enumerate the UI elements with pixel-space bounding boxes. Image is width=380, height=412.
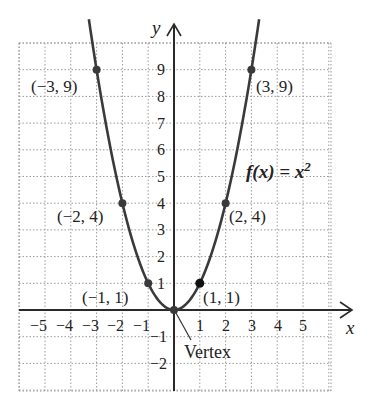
y-tick-9: 9 (157, 62, 165, 78)
point-label-neg3-9: (−3, 9) (31, 78, 77, 95)
x-tick-4: 4 (274, 318, 282, 334)
y-tick-neg2: −2 (150, 356, 167, 372)
y-tick-5: 5 (157, 169, 165, 185)
x-tick-neg5: −5 (30, 318, 47, 334)
point-label-neg1-1: (−1, 1) (82, 289, 128, 306)
data-point (222, 199, 230, 207)
y-tick-7: 7 (157, 116, 165, 132)
y-tick-6: 6 (157, 142, 165, 158)
data-point (170, 306, 178, 314)
x-tick-neg1: −1 (133, 318, 150, 334)
point-label-neg2-4: (−2, 4) (57, 208, 103, 225)
function-label: f(x) = x2 (246, 160, 311, 181)
function-label-exponent: 2 (304, 159, 311, 174)
y-tick-4: 4 (157, 196, 165, 212)
y-tick-neg1: −1 (150, 329, 167, 345)
y-tick-8: 8 (157, 89, 165, 105)
x-axis-label: x (346, 318, 354, 337)
data-point (247, 66, 255, 74)
x-tick-neg4: −4 (56, 318, 73, 334)
x-tick-3: 3 (248, 318, 256, 334)
point-label-3-9: (3, 9) (256, 78, 293, 95)
data-point (195, 279, 204, 288)
vertex-label: Vertex (184, 343, 231, 361)
x-tick-1: 1 (196, 318, 204, 334)
x-tick-2: 2 (222, 318, 230, 334)
data-point (144, 279, 152, 287)
x-tick-neg3: −3 (82, 318, 99, 334)
vertex-pointer-line (176, 313, 191, 340)
x-tick-neg2: −2 (107, 318, 124, 334)
y-tick-2: 2 (157, 249, 165, 265)
y-axis-label: y (152, 18, 160, 37)
y-tick-3: 3 (157, 222, 165, 238)
y-tick-1: 1 (157, 276, 165, 292)
point-label-1-1: (1, 1) (203, 289, 240, 306)
point-label-2-4: (2, 4) (229, 208, 266, 225)
data-point (118, 199, 126, 207)
function-label-text: f(x) = x (246, 161, 304, 182)
data-point (93, 66, 101, 74)
x-tick-5: 5 (299, 318, 307, 334)
